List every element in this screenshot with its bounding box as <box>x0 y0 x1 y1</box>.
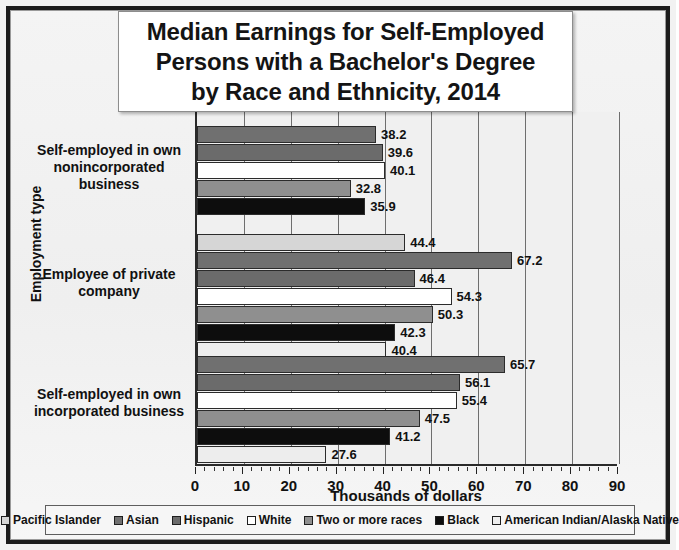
chart-title-box: Median Earnings for Self-Employed Person… <box>118 11 573 112</box>
gridline-70 <box>525 112 526 464</box>
x-tick-minor <box>533 467 534 471</box>
x-tick-major <box>289 467 290 474</box>
bar-1-1 <box>197 252 512 269</box>
x-tick-major <box>242 467 243 474</box>
x-axis-title: Thousands of dollars <box>195 487 617 504</box>
bar-value-label: 27.6 <box>331 448 356 461</box>
x-tick-minor <box>551 467 552 471</box>
x-tick-minor <box>261 467 262 471</box>
bar-value-label: 47.5 <box>425 412 450 425</box>
category-label-0: Self-employed in own nonincorporated bus… <box>28 142 190 193</box>
x-tick-minor <box>204 467 205 471</box>
bar-2-5 <box>197 428 390 445</box>
legend-label: Hispanic <box>184 513 234 527</box>
x-tick-minor <box>411 467 412 471</box>
legend-item-6: American Indian/Alaska Native <box>492 513 679 527</box>
legend-item-3: White <box>247 513 292 527</box>
bar-value-label: 50.3 <box>438 308 463 321</box>
x-tick-minor <box>233 467 234 471</box>
x-tick-minor <box>420 467 421 471</box>
chart-title-line-2: Persons with a Bachelor's Degree <box>156 47 535 77</box>
chart-title-line-1: Median Earnings for Self-Employed <box>147 17 544 47</box>
bar-0-5 <box>197 198 365 215</box>
x-tick-label-40: 40 <box>374 477 391 494</box>
x-tick-label-60: 60 <box>468 477 485 494</box>
x-tick-minor <box>504 467 505 471</box>
bar-value-label: 35.9 <box>370 200 395 213</box>
bar-value-label: 38.2 <box>381 128 406 141</box>
legend-label: Asian <box>126 513 159 527</box>
legend-swatch-icon <box>435 516 444 525</box>
x-tick-minor <box>514 467 515 471</box>
bar-2-1 <box>197 356 505 373</box>
x-tick-minor <box>401 467 402 471</box>
x-tick-label-10: 10 <box>234 477 251 494</box>
legend-item-4: Two or more races <box>304 513 422 527</box>
x-tick-minor <box>298 467 299 471</box>
legend-label: Two or more races <box>316 513 422 527</box>
bar-0-4 <box>197 180 351 197</box>
bar-value-label: 42.3 <box>400 326 425 339</box>
x-tick-minor <box>317 467 318 471</box>
gridline-60 <box>478 112 479 464</box>
x-tick-major <box>383 467 384 474</box>
x-tick-minor <box>373 467 374 471</box>
plot-area: 38.239.640.132.835.944.467.246.454.350.3… <box>195 112 617 466</box>
x-tick-label-30: 30 <box>327 477 344 494</box>
legend-swatch-icon <box>247 516 256 525</box>
category-label-2: Self-employed in own incorporated busine… <box>28 386 190 420</box>
bar-value-label: 67.2 <box>517 254 542 267</box>
x-tick-minor <box>279 467 280 471</box>
x-tick-label-90: 90 <box>609 477 626 494</box>
legend-item-1: Asian <box>114 513 159 527</box>
bar-value-label: 65.7 <box>510 358 535 371</box>
legend-label: American Indian/Alaska Native <box>504 513 679 527</box>
chart-title-line-3: by Race and Ethnicity, 2014 <box>191 77 500 107</box>
x-tick-minor <box>598 467 599 471</box>
x-tick-major <box>570 467 571 474</box>
x-tick-minor <box>214 467 215 471</box>
x-tick-minor <box>458 467 459 471</box>
x-tick-minor <box>608 467 609 471</box>
bar-value-label: 40.1 <box>390 164 415 177</box>
bar-value-label: 55.4 <box>462 394 487 407</box>
bar-2-4 <box>197 410 420 427</box>
bar-0-2 <box>197 144 383 161</box>
gridline-90 <box>619 112 620 464</box>
legend-swatch-icon <box>172 516 181 525</box>
x-tick-minor <box>589 467 590 471</box>
x-tick-minor <box>486 467 487 471</box>
x-tick-minor <box>561 467 562 471</box>
gridline-80 <box>572 112 573 464</box>
x-tick-minor <box>354 467 355 471</box>
x-tick-minor <box>579 467 580 471</box>
x-tick-minor <box>467 467 468 471</box>
bar-0-1 <box>197 126 376 143</box>
bar-2-6 <box>197 446 326 463</box>
bar-1-3 <box>197 288 452 305</box>
legend-item-2: Hispanic <box>172 513 234 527</box>
bar-1-2 <box>197 270 415 287</box>
bar-2-3 <box>197 392 457 409</box>
bar-value-label: 46.4 <box>420 272 445 285</box>
x-tick-label-50: 50 <box>421 477 438 494</box>
x-tick-minor <box>223 467 224 471</box>
legend-label: White <box>259 513 292 527</box>
bar-1-4 <box>197 306 433 323</box>
bar-value-label: 32.8 <box>356 182 381 195</box>
bar-value-label: 41.2 <box>395 430 420 443</box>
bar-2-2 <box>197 374 460 391</box>
x-tick-minor <box>345 467 346 471</box>
x-tick-minor <box>308 467 309 471</box>
chart-legend: Pacific IslanderAsianHispanicWhiteTwo or… <box>45 505 635 535</box>
legend-swatch-icon <box>114 516 123 525</box>
legend-swatch-icon <box>492 516 501 525</box>
legend-swatch-icon <box>304 516 313 525</box>
legend-item-5: Black <box>435 513 479 527</box>
x-tick-minor <box>542 467 543 471</box>
bar-value-label: 56.1 <box>465 376 490 389</box>
x-tick-label-80: 80 <box>562 477 579 494</box>
y-axis-title: Employment type <box>28 164 44 324</box>
legend-swatch-icon <box>1 516 10 525</box>
